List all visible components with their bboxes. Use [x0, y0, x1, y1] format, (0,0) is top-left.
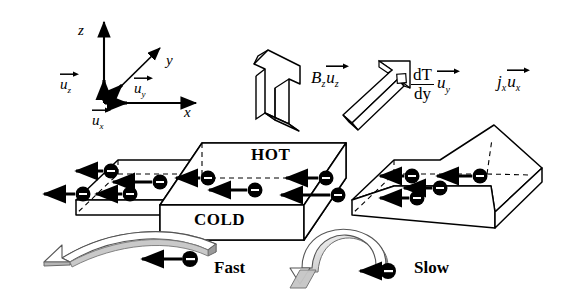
thermal-unit-symbol: u — [437, 73, 446, 92]
hot-surface-label: HOT — [251, 145, 290, 165]
thermal-gradient-label: dT dy uy — [411, 66, 450, 103]
unit-vector-y-sub: y — [142, 89, 146, 99]
unit-vector-z-symbol: u — [60, 76, 68, 92]
thermal-gradient-numerator: dT — [411, 66, 434, 85]
fast-carrier-label: Fast — [214, 258, 245, 278]
unit-vector-x-sub: x — [100, 121, 104, 131]
unit-vector-x-label: ux — [92, 112, 104, 131]
current-density-sub: x — [502, 82, 506, 93]
thermal-unit-sub: y — [445, 84, 449, 95]
unit-vector-z-sub: z — [68, 85, 72, 95]
cold-surface-label: COLD — [194, 210, 245, 230]
axis-label-y: y — [166, 52, 173, 69]
magnetic-field-sub: z — [321, 78, 325, 89]
magnetic-field-symbol: B — [311, 68, 321, 87]
unit-vector-y-label: uy — [134, 80, 146, 99]
current-density-label: jxux — [497, 72, 520, 93]
unit-vector-y-symbol: u — [134, 80, 142, 96]
axis-label-x: x — [184, 104, 191, 121]
coordinate-axes — [104, 22, 196, 103]
thermal-gradient-denominator: dy — [411, 85, 434, 103]
current-unit-sub: x — [516, 82, 520, 93]
current-unit-symbol: u — [507, 72, 516, 91]
unit-vector-z-label: uz — [60, 76, 71, 95]
thermal-gradient-arrow-3d — [343, 61, 410, 130]
magnetic-field-arrow-3d — [254, 50, 300, 131]
unit-vector-x-symbol: u — [92, 112, 100, 128]
magnetic-unit-sub: z — [335, 78, 339, 89]
magnetic-field-label: Bzuz — [311, 68, 339, 89]
fast-electron-velocity — [142, 251, 198, 267]
thermal-gradient-fraction: dT dy — [411, 66, 434, 103]
magnetic-unit-symbol: u — [326, 68, 335, 87]
axis-label-z: z — [78, 22, 84, 39]
figure-canvas: z y x uz uy ux Bzuz dT dy uy jxux HOT CO… — [0, 0, 575, 299]
slow-carrier-label: Slow — [414, 258, 449, 278]
